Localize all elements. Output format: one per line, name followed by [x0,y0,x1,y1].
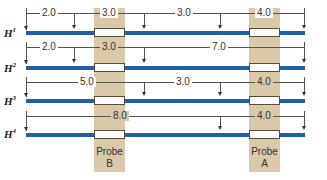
cut-arrow [302,59,306,63]
probe-a-label: Probe A [249,146,280,170]
row-label-sup: 4 [13,127,17,135]
segment-length: 4.0 [255,111,273,121]
probe-b-site [94,96,125,105]
probe-b-label: Probe B [94,146,125,170]
segment-length: 4.0 [255,8,273,18]
segment-length: 3.0 [100,8,118,18]
segment-length: 4.0 [255,77,273,87]
segment-length: 7.0 [210,42,228,52]
probe-b-site [94,130,125,139]
row-label-sup: 3 [13,94,17,102]
probe-a-site [249,130,280,139]
probe-a-site [249,28,280,37]
cut-arrow [24,26,28,30]
segment-length: 3.0 [174,77,192,87]
cut-arrow [24,127,28,131]
cut-arrow [218,25,222,29]
cut-arrow [72,59,76,63]
segment-length: 8.0 [111,111,129,121]
probe-a-site [249,63,280,72]
probe-label-line: Probe [249,146,280,158]
cut-arrow [218,92,222,96]
row-label-h3: H3 [4,94,16,107]
probe-label-line: A [249,158,280,170]
segment-length: 3.0 [175,8,193,18]
cut-arrow [302,25,306,29]
row-label-text: H [4,128,13,140]
row-label-text: H [4,95,13,107]
segment-length: 2.0 [40,42,58,52]
cut-arrow [142,25,146,29]
probe-a-site [249,96,280,105]
cut-arrow [142,92,146,96]
segment-length: 5.0 [78,77,96,87]
segment-length: 3.0 [100,42,118,52]
cut-arrow [302,126,306,130]
cut-arrow [24,60,28,64]
cut-arrow [218,126,222,130]
row-label-text: H [4,62,13,74]
probe-label-line: B [94,158,125,170]
row-label-sup: 2 [13,61,17,69]
probe-b-site [94,28,125,37]
row-label-sup: 1 [13,26,17,34]
row-label-text: H [4,27,13,39]
probe-label-line: Probe [94,146,125,158]
cut-arrow [142,59,146,63]
row-label-h4: H4 [4,127,16,140]
dim-line-h2 [26,47,305,48]
cut-arrow [72,25,76,29]
row-label-h2: H2 [4,61,16,74]
row-label-h1: H1 [4,26,16,39]
cut-arrow [302,92,306,96]
segment-length: 2.0 [40,8,58,18]
probe-b-site [94,63,125,72]
cut-arrow [24,93,28,97]
